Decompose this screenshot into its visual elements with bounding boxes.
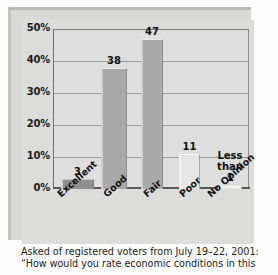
y-axis-labels: 50% 40% 30% 20% 10% 0% <box>8 22 50 197</box>
y-tick-50: 50% <box>8 22 50 33</box>
caption-line-2: “How would you rate economic conditions … <box>21 258 273 270</box>
y-tick-0: 0% <box>8 182 50 193</box>
bar-value-poor: 11 <box>183 141 197 152</box>
y-tick-30: 30% <box>8 86 50 97</box>
caption-line-1: Asked of registered voters from July 19–… <box>21 246 273 258</box>
chart-caption: Asked of registered voters from July 19–… <box>21 246 273 269</box>
bar-value-fair: 47 <box>145 26 159 37</box>
bar-fair[interactable] <box>141 39 163 189</box>
x-axis-labels: Excellent Good Fair Poor No Opinion <box>53 191 253 243</box>
bar-slot-good: 38 <box>101 29 127 189</box>
y-tick-40: 40% <box>8 54 50 65</box>
bar-value-good: 38 <box>107 55 121 66</box>
bar-good[interactable] <box>101 68 127 189</box>
y-tick-20: 20% <box>8 118 50 129</box>
bar-slot-poor: 11 <box>179 29 200 189</box>
y-tick-10: 10% <box>8 150 50 161</box>
chart-screenshot: 50% 40% 30% 20% 10% 0% 3 38 47 11 <box>0 0 278 275</box>
bar-slot-fair: 47 <box>141 29 163 189</box>
